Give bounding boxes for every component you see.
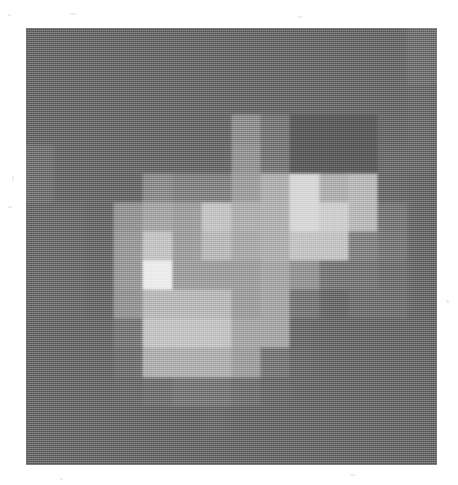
pixel-block <box>232 115 261 144</box>
pixel-block <box>55 407 84 436</box>
pixel-block <box>232 436 261 465</box>
pixel-block <box>26 436 55 465</box>
page-root <box>0 0 458 485</box>
pixel-block <box>232 145 261 174</box>
pixel-block <box>55 174 84 203</box>
margin-speckle <box>298 16 302 18</box>
pixel-block <box>232 203 261 232</box>
pixel-block <box>173 86 202 115</box>
pixel-block <box>408 407 437 436</box>
pixel-block <box>26 28 55 57</box>
pixel-block <box>143 407 172 436</box>
pixel-block <box>290 174 319 203</box>
pixel-block <box>232 57 261 86</box>
pixel-block <box>320 290 349 319</box>
pixel-block <box>261 407 290 436</box>
pixel-block <box>173 290 202 319</box>
pixel-block <box>85 145 114 174</box>
pixel-block <box>85 203 114 232</box>
pixel-block <box>202 57 231 86</box>
margin-speckle <box>8 14 11 16</box>
pixel-block <box>173 145 202 174</box>
pixel-block <box>55 378 84 407</box>
pixel-block <box>290 28 319 57</box>
pixel-block <box>349 115 378 144</box>
pixel-block <box>378 232 407 261</box>
pixel-block <box>202 115 231 144</box>
pixel-block <box>290 232 319 261</box>
pixel-block <box>85 407 114 436</box>
pixel-block <box>349 378 378 407</box>
pixel-block <box>378 86 407 115</box>
pixel-block <box>173 319 202 348</box>
pixel-block <box>320 145 349 174</box>
pixel-block <box>55 203 84 232</box>
pixel-block <box>290 261 319 290</box>
pixel-block <box>408 145 437 174</box>
pixel-block <box>26 319 55 348</box>
pixel-block <box>320 174 349 203</box>
pixel-block <box>202 174 231 203</box>
pixel-block <box>85 115 114 144</box>
pixel-block <box>114 290 143 319</box>
pixel-block <box>114 174 143 203</box>
pixel-block <box>290 290 319 319</box>
pixel-block <box>173 115 202 144</box>
pixel-block <box>173 261 202 290</box>
pixel-block <box>408 348 437 377</box>
pixel-block <box>232 86 261 115</box>
pixel-block <box>143 115 172 144</box>
pixel-block <box>202 348 231 377</box>
pixel-block <box>261 348 290 377</box>
pixel-block <box>290 407 319 436</box>
pixel-block <box>349 145 378 174</box>
pixel-block <box>143 203 172 232</box>
pixel-block <box>378 203 407 232</box>
pixel-block <box>114 348 143 377</box>
pixel-block <box>85 57 114 86</box>
pixel-block <box>114 57 143 86</box>
pixel-block <box>55 348 84 377</box>
pixel-block <box>290 319 319 348</box>
pixel-block <box>261 261 290 290</box>
pixel-block <box>55 57 84 86</box>
pixel-block <box>202 436 231 465</box>
pixel-block <box>85 261 114 290</box>
pixel-block <box>349 86 378 115</box>
pixel-block <box>202 232 231 261</box>
pixel-block <box>114 232 143 261</box>
pixel-block <box>349 57 378 86</box>
pixel-block <box>408 290 437 319</box>
pixel-block <box>114 86 143 115</box>
pixel-block <box>143 145 172 174</box>
pixel-block <box>143 348 172 377</box>
pixel-block <box>408 232 437 261</box>
pixel-block <box>85 174 114 203</box>
pixel-block <box>85 378 114 407</box>
pixel-block <box>290 145 319 174</box>
pixel-block <box>320 348 349 377</box>
pixel-block <box>408 203 437 232</box>
pixel-block <box>232 174 261 203</box>
pixel-block <box>202 319 231 348</box>
pixel-block <box>378 348 407 377</box>
pixel-block <box>290 348 319 377</box>
pixel-block <box>55 319 84 348</box>
pixel-block <box>202 290 231 319</box>
pixel-block <box>408 319 437 348</box>
pixel-block <box>320 28 349 57</box>
pixel-block <box>143 28 172 57</box>
pixel-block <box>261 290 290 319</box>
pixel-block <box>290 57 319 86</box>
pixel-block <box>378 319 407 348</box>
pixel-block <box>320 115 349 144</box>
pixel-block <box>261 232 290 261</box>
pixel-block <box>261 28 290 57</box>
margin-speckle <box>446 300 449 303</box>
pixel-block <box>349 436 378 465</box>
pixel-block <box>173 57 202 86</box>
pixel-block <box>261 115 290 144</box>
pixel-block <box>290 115 319 144</box>
pixel-block <box>55 86 84 115</box>
pixel-block <box>378 145 407 174</box>
